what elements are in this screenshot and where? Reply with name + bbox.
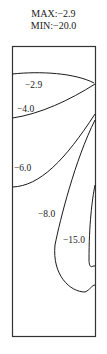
contour-label: −8.0 [38,209,55,219]
contour-line-6.0 [13,114,96,187]
contour-label: −2.9 [25,80,42,90]
contour-label: −4.0 [17,104,34,114]
contour-label: −6.0 [14,163,31,173]
contour-line-8.0 [55,120,95,292]
contour-label: −15.0 [63,235,85,245]
contour-plot [0,0,107,354]
contour-line-15.0 [89,185,95,267]
domain-boundary [13,47,96,337]
